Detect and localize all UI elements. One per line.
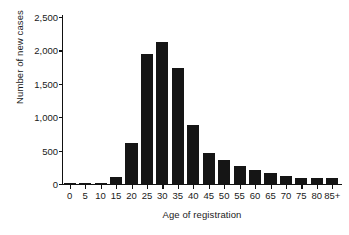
x-tick-mark xyxy=(224,185,225,189)
y-axis-title: Number of new cases xyxy=(13,0,27,137)
bar xyxy=(249,170,261,184)
bar xyxy=(218,160,230,184)
x-tick-mark xyxy=(240,185,241,189)
x-tick-mark xyxy=(317,185,318,189)
x-tick-label: 25 xyxy=(142,190,153,201)
y-tick-label: 500 xyxy=(42,145,58,156)
x-tick-label: 65 xyxy=(265,190,276,201)
y-tick-mark xyxy=(59,84,63,85)
x-tick-mark xyxy=(178,185,179,189)
x-tick-mark xyxy=(132,185,133,189)
x-tick-label: 0 xyxy=(67,190,72,201)
bar xyxy=(187,125,199,184)
bar xyxy=(311,178,323,184)
bar xyxy=(64,183,76,184)
bar xyxy=(280,176,292,184)
bar xyxy=(172,68,184,184)
bar xyxy=(156,42,168,184)
plot-area: 05001,0001,5002,0002,500 xyxy=(62,17,340,184)
x-tick-mark xyxy=(286,185,287,189)
x-tick-label: 75 xyxy=(296,190,307,201)
bar-series xyxy=(62,17,340,184)
x-tick-mark xyxy=(116,185,117,189)
x-tick-label: 15 xyxy=(111,190,122,201)
x-tick-label: 85+ xyxy=(324,190,340,201)
x-tick-label: 30 xyxy=(157,190,168,201)
bar xyxy=(125,143,137,184)
y-tick-mark xyxy=(59,50,63,51)
bar xyxy=(95,183,107,184)
x-tick-label: 5 xyxy=(83,190,88,201)
x-tick-mark xyxy=(301,185,302,189)
x-tick-label: 70 xyxy=(281,190,292,201)
y-tick-mark xyxy=(59,151,63,152)
y-tick-label: 2,500 xyxy=(34,12,58,23)
x-tick-mark xyxy=(271,185,272,189)
y-tick-mark xyxy=(59,17,63,18)
x-tick-mark xyxy=(255,185,256,189)
x-tick-label: 45 xyxy=(203,190,214,201)
x-axis-title: Age of registration xyxy=(62,209,342,220)
x-tick-mark xyxy=(209,185,210,189)
histogram-chart: Number of new cases 05001,0001,5002,0002… xyxy=(0,0,349,235)
x-tick-mark xyxy=(193,185,194,189)
x-tick-mark xyxy=(332,185,333,189)
bar xyxy=(295,178,307,184)
x-tick-label: 55 xyxy=(234,190,245,201)
y-tick-label: 2,000 xyxy=(34,45,58,56)
x-tick-mark xyxy=(85,185,86,189)
x-axis-ticks: 0510152025303540455055606570758085+ xyxy=(62,185,342,205)
bar xyxy=(264,173,276,184)
bar xyxy=(203,153,215,184)
bar xyxy=(110,177,122,184)
bar xyxy=(234,166,246,184)
x-tick-label: 80 xyxy=(312,190,323,201)
x-tick-mark xyxy=(70,185,71,189)
x-tick-label: 40 xyxy=(188,190,199,201)
x-tick-mark xyxy=(101,185,102,189)
y-tick-label: 0 xyxy=(53,179,58,190)
bar xyxy=(326,178,338,184)
bar xyxy=(79,183,91,184)
bar xyxy=(141,54,153,184)
x-tick-label: 60 xyxy=(250,190,261,201)
y-tick-label: 1,500 xyxy=(34,78,58,89)
y-tick-label: 1,000 xyxy=(34,112,58,123)
y-tick-mark xyxy=(59,117,63,118)
x-tick-label: 50 xyxy=(219,190,230,201)
x-tick-mark xyxy=(162,185,163,189)
x-tick-label: 35 xyxy=(173,190,184,201)
x-tick-label: 10 xyxy=(95,190,106,201)
x-tick-label: 20 xyxy=(126,190,137,201)
x-tick-mark xyxy=(147,185,148,189)
